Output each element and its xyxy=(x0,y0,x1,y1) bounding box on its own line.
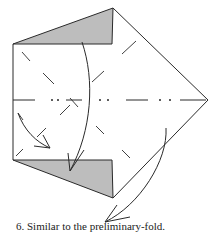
origami-diagram xyxy=(0,0,216,241)
step-caption: 6. Similar to the preliminary-fold. xyxy=(16,220,165,232)
shaded-bottom-triangle xyxy=(13,160,113,198)
arrowhead-left-inner xyxy=(34,135,50,148)
curved-arrow-left-inner xyxy=(18,113,50,148)
horizontal-mountain-fold-line xyxy=(13,99,206,100)
shaded-top-triangle xyxy=(13,8,113,44)
curved-arrow-top-to-bottom xyxy=(70,42,90,171)
